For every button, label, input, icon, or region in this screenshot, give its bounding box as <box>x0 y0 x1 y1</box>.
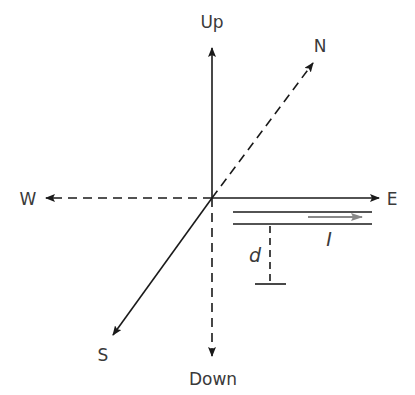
label-distance: d <box>249 244 262 266</box>
label-south: S <box>98 345 109 365</box>
label-current: I <box>326 228 332 250</box>
label-up: Up <box>200 12 223 32</box>
label-east: E <box>387 189 398 209</box>
north-axis <box>212 63 313 198</box>
label-west: W <box>20 189 37 209</box>
axes-diagram: Up N E W S Down d I <box>0 0 415 395</box>
label-down: Down <box>189 369 237 389</box>
south-axis <box>113 198 212 335</box>
label-north: N <box>314 36 327 56</box>
